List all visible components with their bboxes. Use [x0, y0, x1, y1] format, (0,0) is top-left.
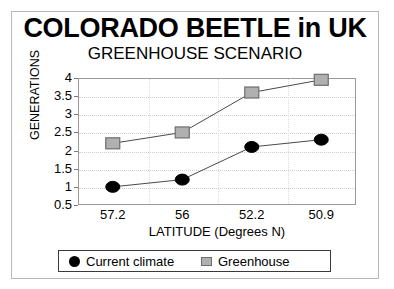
data-point-square [314, 74, 328, 85]
legend-item-greenhouse: Greenhouse [201, 251, 290, 271]
data-point-square [245, 87, 259, 98]
x-tick-label: 56 [152, 208, 212, 222]
y-tick-label: 1 [38, 180, 72, 193]
data-point-square [175, 127, 189, 138]
y-tick-label: 3.5 [38, 89, 72, 102]
chart-page: COLORADO BEETLE in UK GREENHOUSE SCENARI… [0, 0, 394, 289]
x-axis-title: LATITUDE (Degrees N) [78, 224, 356, 239]
chart-title: COLORADO BEETLE in UK [12, 13, 378, 43]
y-tick-label: 2.5 [38, 125, 72, 138]
y-tick-label: 3 [38, 107, 72, 120]
x-tick-label: 57.2 [83, 208, 143, 222]
data-point-circle [314, 134, 328, 145]
x-tick-label: 50.9 [291, 208, 351, 222]
legend: Current climate Greenhouse [58, 250, 331, 272]
y-tick-label: 0.5 [38, 198, 72, 211]
y-tick-label: 1.5 [38, 162, 72, 175]
data-point-circle [245, 141, 259, 152]
x-tick-label: 52.2 [222, 208, 282, 222]
y-tick-label: 2 [38, 144, 72, 157]
square-marker-icon [201, 257, 212, 266]
y-tick-mark [74, 205, 78, 206]
circle-marker-icon [69, 256, 80, 267]
legend-item-label: Greenhouse [218, 254, 290, 269]
series-line [113, 140, 322, 187]
legend-item-label: Current climate [86, 254, 174, 269]
y-tick-label: 4 [38, 71, 72, 84]
data-point-square [106, 138, 120, 149]
data-series-layer [78, 78, 356, 205]
data-point-circle [106, 181, 120, 192]
chart-subtitle: GREENHOUSE SCENARIO [12, 44, 378, 64]
legend-item-current-climate: Current climate [69, 251, 174, 271]
data-point-circle [175, 174, 189, 185]
series-line [113, 80, 322, 144]
